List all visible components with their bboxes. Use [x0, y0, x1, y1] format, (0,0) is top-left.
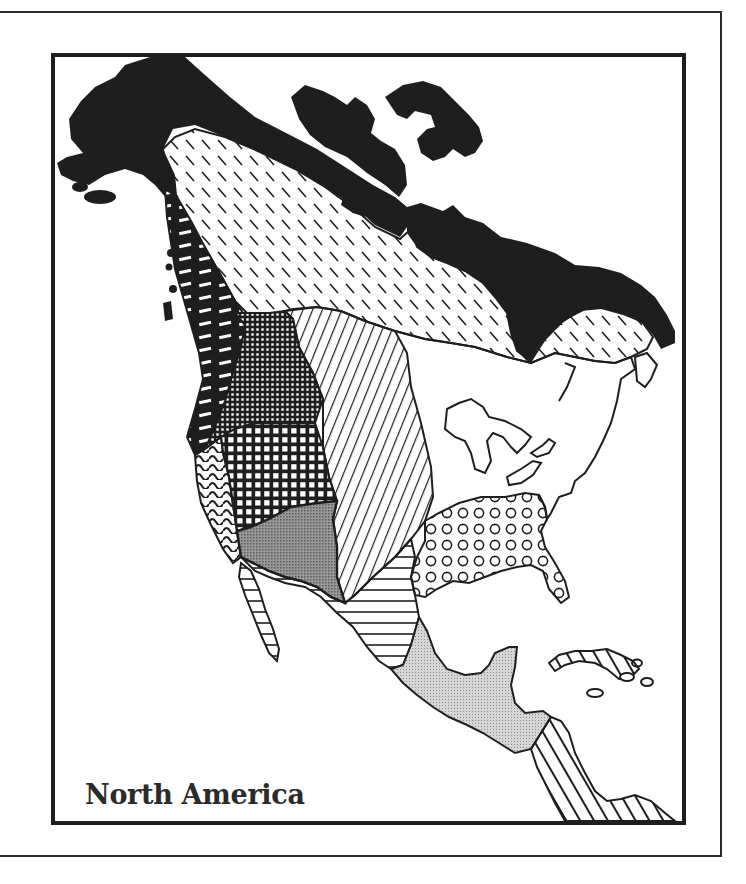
- region-mesoamerica: [391, 617, 551, 753]
- map-title: North America: [85, 779, 305, 810]
- map-frame: North America: [51, 53, 686, 825]
- north-america-map: [55, 57, 682, 821]
- region-circum-caribbean: [531, 649, 675, 821]
- great-lakes: [445, 399, 531, 473]
